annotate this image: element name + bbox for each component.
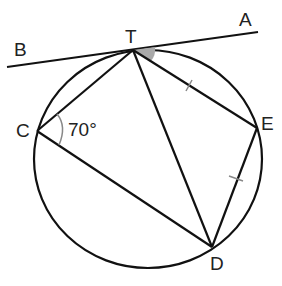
circle-tangent-diagram: T A B C E D 70° [0,0,282,286]
chord-TE [133,50,257,128]
chord-CD [37,131,212,247]
chord-TD [133,50,212,247]
tick-mark-ED [229,176,243,181]
label-T: T [125,26,137,47]
label-A: A [239,9,252,30]
circle [34,50,262,268]
angle-label-70: 70° [68,119,97,140]
label-D: D [210,253,224,274]
label-C: C [16,120,30,141]
label-E: E [261,113,274,134]
angle-arc-C [57,114,63,145]
label-B: B [14,39,27,60]
